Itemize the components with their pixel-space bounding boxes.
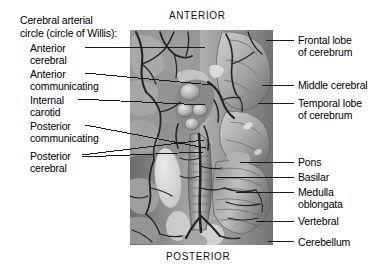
anatomy-figure: ANTERIOR POSTERIOR Cerebral arterial cir… [0,0,390,269]
circle-of-willis-heading: Cerebral arterial circle (circle of Will… [20,14,117,39]
label-temporal-lobe-line1: Temporal lobe [298,97,362,109]
label-posterior-cerebral-line2: cerebral [30,162,67,174]
heading-line-2: circle (circle of Willis): [20,27,117,40]
label-pons: Pons [298,156,321,168]
label-vertebral: Vertebral [298,215,339,227]
label-temporal-lobe-line2: of cerebrum [298,109,352,121]
label-middle-cerebral: Middle cerebral [298,79,368,91]
label-frontal-lobe-line1: Frontal lobe [298,34,352,46]
orientation-label-posterior: POSTERIOR [166,251,230,262]
label-internal-carotid-line2: carotid [30,106,60,118]
label-posterior-cerebral-line1: Posterior [30,150,71,162]
label-anterior-cerebral-line2: cerebral [30,54,67,66]
label-cerebellum: Cerebellum [298,236,350,248]
label-basilar: Basilar [298,171,329,183]
label-anterior-communicating-line2: communicating [30,80,99,92]
brain-inferior-view-illustration [130,30,273,245]
orientation-label-anterior: ANTERIOR [169,10,225,21]
label-medulla-line1: Medulla [298,186,334,198]
heading-line-1: Cerebral arterial [20,14,117,27]
label-anterior-cerebral-line1: Anterior [30,42,66,54]
label-posterior-communicating-line2: communicating [30,132,99,144]
label-internal-carotid-line1: Internal [30,94,64,106]
label-frontal-lobe-line2: of cerebrum [298,46,352,58]
label-medulla-line2: oblongata [298,198,343,210]
label-posterior-communicating-line1: Posterior [30,120,71,132]
label-anterior-communicating-line1: Anterior [30,68,66,80]
